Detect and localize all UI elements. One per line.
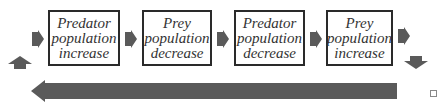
box-text-line: Predator — [57, 16, 111, 31]
box-text-line: population — [237, 31, 302, 46]
down-arrow-icon — [404, 56, 428, 69]
right-arrow-icon — [217, 30, 229, 48]
box-text-line: population — [51, 31, 116, 46]
right-arrow-icon — [32, 30, 44, 48]
up-arrow-icon — [8, 56, 32, 69]
flow-box-predator-increase: Predator population increase — [48, 10, 120, 66]
flow-box-prey-increase: Prey population increase — [326, 10, 393, 66]
box-text-line: Prey — [163, 16, 191, 31]
box-text-line: population — [327, 31, 392, 46]
flow-box-predator-decrease: Predator population decrease — [234, 10, 305, 66]
box-text-line: Predator — [243, 16, 297, 31]
box-text-line: decrease — [151, 46, 204, 61]
box-text-line: increase — [334, 46, 384, 61]
box-text-line: Prey — [346, 16, 374, 31]
checkbox-square-icon — [430, 90, 437, 97]
box-text-line: population — [144, 31, 209, 46]
box-text-line: increase — [59, 46, 109, 61]
box-text-line: decrease — [243, 46, 296, 61]
right-arrow-icon — [125, 30, 137, 48]
flow-box-prey-decrease: Prey population decrease — [142, 10, 212, 66]
right-arrow-icon — [398, 27, 410, 45]
right-arrow-icon — [310, 30, 322, 48]
return-left-arrow-icon — [31, 80, 397, 102]
